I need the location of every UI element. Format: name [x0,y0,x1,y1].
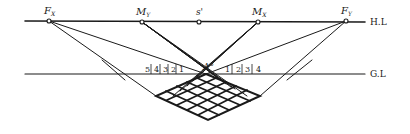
point-fx [47,19,51,23]
label-ground: G.L [370,69,386,79]
tick-right-2: 2 [236,65,241,74]
fy-rays [206,21,346,96]
point-mx [256,20,260,24]
tick-right-1: 1 [225,65,230,74]
tick-right-3: 3 [245,65,250,74]
horizon-line [25,21,365,22]
point-fy [344,19,348,23]
tick-left-2: 2 [171,65,176,74]
label-horizon: H.L [370,17,387,27]
label-mx: MX [251,6,267,18]
grid [156,74,260,120]
label-a: A° [202,62,214,72]
label-fx: FX [43,5,56,17]
right-outer-ray [287,60,312,80]
tick-left-3: 3 [163,65,168,74]
tick-left-1: 1 [179,65,184,74]
label-s: s' [196,7,203,17]
tick-left-5: 5 [145,65,150,74]
perspective-diagram: FX MY s' MX FY A° H.L G.L 5 4 3 2 1 1 2 … [0,0,410,134]
point-s [197,20,201,24]
left-outer-ray [102,60,125,80]
point-my [140,20,144,24]
tick-right-4: 4 [256,65,261,74]
label-fy: FY [340,5,353,17]
tick-left-4: 4 [154,65,159,74]
label-my: MY [135,6,151,18]
